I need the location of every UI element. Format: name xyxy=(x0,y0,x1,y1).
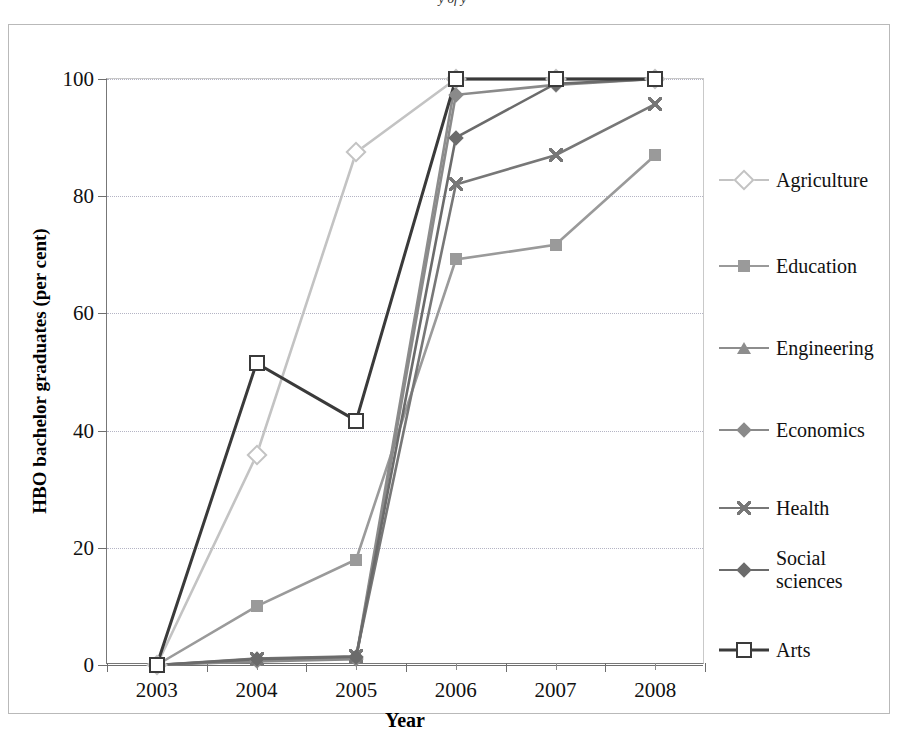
legend-marker-icon xyxy=(736,562,752,578)
y-tick-60 xyxy=(98,313,107,314)
legend-marker-icon xyxy=(736,422,752,438)
legend-marker-icon xyxy=(738,260,750,272)
legend-swatch-social-sciences xyxy=(719,560,769,580)
y-tick-label-80: 80 xyxy=(73,184,94,209)
legend-swatch-economics xyxy=(719,420,769,440)
y-tick-80 xyxy=(98,196,107,197)
legend-item-education[interactable]: Education xyxy=(719,253,857,279)
y-tick-label-40: 40 xyxy=(73,418,94,443)
legend-item-arts[interactable]: Arts xyxy=(719,637,810,663)
y-tick-label-0: 0 xyxy=(84,653,95,678)
data-point-education-2007 xyxy=(550,239,562,251)
legend-label: Education xyxy=(769,255,857,278)
legend-label: Agriculture xyxy=(769,169,868,192)
x-tick-label-2003: 2003 xyxy=(136,678,178,703)
data-point-arts-2005 xyxy=(348,413,364,429)
y-tick-20 xyxy=(98,548,107,549)
legend-item-engineering[interactable]: Engineering xyxy=(719,335,874,361)
legend-swatch-health xyxy=(719,498,769,518)
legend-label: Economics xyxy=(769,419,865,442)
y-tick-label-20: 20 xyxy=(73,535,94,560)
y-tick-40 xyxy=(98,431,107,432)
legend-item-health[interactable]: Health xyxy=(719,495,829,521)
y-tick-100 xyxy=(98,79,107,80)
data-point-education-2008 xyxy=(649,149,661,161)
series-line-economics xyxy=(157,79,655,665)
plot-area: 020406080100200320042005200620072008 xyxy=(106,78,704,664)
legend-marker-icon xyxy=(737,501,751,515)
chart-page: y of y HBO bachelor graduates (per cent)… xyxy=(0,0,905,753)
legend-marker-icon xyxy=(737,342,751,354)
legend-marker-icon xyxy=(736,642,752,658)
legend-item-social-sciences[interactable]: Social sciences xyxy=(719,557,843,583)
legend-label: Social sciences xyxy=(769,547,843,593)
series-line-health xyxy=(157,104,655,665)
legend-label: Health xyxy=(769,497,829,520)
legend-marker-icon xyxy=(733,169,754,190)
gridline-0 xyxy=(107,665,703,666)
legend-swatch-agriculture xyxy=(719,170,769,190)
data-point-education-2004 xyxy=(251,600,263,612)
x-tick-label-2008: 2008 xyxy=(634,678,676,703)
data-point-health-2008 xyxy=(648,97,662,111)
data-point-education-2005 xyxy=(350,554,362,566)
legend-swatch-arts xyxy=(719,640,769,660)
x-tick-edge-6 xyxy=(705,663,706,672)
legend-label: Arts xyxy=(769,639,810,662)
data-point-arts-2003 xyxy=(149,657,165,673)
y-tick-label-60: 60 xyxy=(73,301,94,326)
legend-swatch-education xyxy=(719,256,769,276)
legend-swatch-engineering xyxy=(719,338,769,358)
x-tick-label-2007: 2007 xyxy=(535,678,577,703)
y-axis-title-text: HBO bachelor graduates (per cent) xyxy=(29,228,51,513)
plot-inner: 020406080100200320042005200620072008 xyxy=(107,79,703,663)
x-tick-label-2006: 2006 xyxy=(435,678,477,703)
legend-item-agriculture[interactable]: Agriculture xyxy=(719,167,868,193)
y-axis-title: HBO bachelor graduates (per cent) xyxy=(27,78,53,664)
data-point-health-2007 xyxy=(549,148,563,162)
data-point-arts-2004 xyxy=(249,355,265,371)
series-lines xyxy=(107,79,705,665)
y-tick-0 xyxy=(98,665,107,666)
y-tick-label-100: 100 xyxy=(63,67,95,92)
chart-frame: HBO bachelor graduates (per cent) 020406… xyxy=(8,24,890,714)
data-point-arts-2007 xyxy=(548,71,564,87)
data-point-arts-2006 xyxy=(448,71,464,87)
x-tick-label-2004: 2004 xyxy=(236,678,278,703)
data-point-education-2006 xyxy=(450,253,462,265)
legend-label: Engineering xyxy=(769,337,874,360)
legend-item-economics[interactable]: Economics xyxy=(719,417,865,443)
series-line-education xyxy=(157,155,655,665)
x-axis-title: Year xyxy=(106,709,704,732)
data-point-arts-2008 xyxy=(647,71,663,87)
x-tick-label-2005: 2005 xyxy=(335,678,377,703)
data-point-health-2006 xyxy=(449,177,463,191)
clipped-title: y of y xyxy=(0,0,905,9)
